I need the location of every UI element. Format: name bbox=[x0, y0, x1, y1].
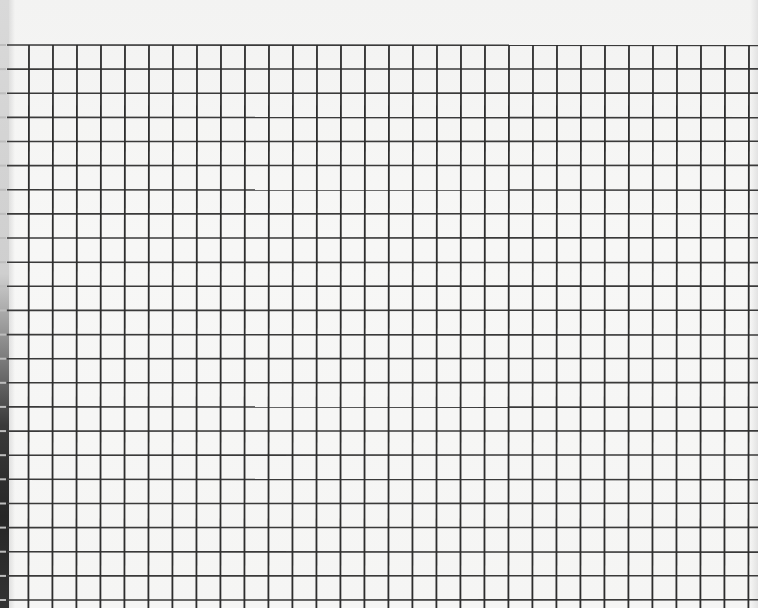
vertical-grid-line bbox=[148, 45, 149, 608]
margin-tick bbox=[0, 309, 6, 311]
margin-tick bbox=[0, 575, 6, 577]
vertical-grid-line bbox=[724, 45, 725, 608]
vertical-grid-line bbox=[628, 45, 629, 608]
vertical-grid-line bbox=[340, 45, 341, 608]
margin-tick bbox=[0, 213, 6, 215]
graph-paper-photo bbox=[0, 0, 758, 608]
margin-tick bbox=[0, 189, 6, 191]
vertical-grid-line bbox=[460, 45, 461, 608]
vertical-grid-line bbox=[52, 45, 53, 608]
margin-tick bbox=[0, 454, 6, 456]
margin-tick bbox=[0, 165, 6, 167]
grid-lines bbox=[0, 0, 758, 608]
vertical-grid-line bbox=[436, 45, 437, 608]
margin-tick bbox=[0, 237, 6, 239]
vertical-grid-line bbox=[28, 45, 29, 608]
vertical-grid-line bbox=[652, 45, 653, 608]
vertical-grid-line bbox=[196, 45, 197, 608]
margin-tick bbox=[0, 44, 6, 46]
vertical-grid-line bbox=[76, 45, 77, 608]
vertical-grid-line bbox=[412, 45, 413, 608]
vertical-grid-line bbox=[172, 45, 173, 608]
vertical-grid-line bbox=[244, 45, 245, 608]
vertical-grid-line bbox=[292, 45, 293, 608]
margin-tick bbox=[0, 527, 6, 529]
margin-tick bbox=[0, 261, 6, 263]
vertical-grid-line bbox=[124, 45, 125, 608]
vertical-grid-line bbox=[604, 45, 605, 608]
vertical-grid-line bbox=[220, 45, 221, 608]
vertical-grid-line bbox=[508, 45, 509, 608]
margin-tick bbox=[0, 141, 6, 143]
margin-tick bbox=[0, 116, 6, 118]
margin-tick bbox=[0, 358, 6, 360]
vertical-grid-line bbox=[580, 45, 581, 608]
vertical-grid-line bbox=[268, 45, 269, 608]
vertical-grid-line bbox=[316, 45, 317, 608]
vertical-grid-line bbox=[748, 45, 749, 608]
vertical-grid-line bbox=[532, 45, 533, 608]
vertical-grid-line bbox=[700, 45, 701, 608]
margin-tick bbox=[0, 599, 6, 601]
margin-tick bbox=[0, 92, 6, 94]
vertical-grid-line bbox=[100, 45, 101, 608]
vertical-grid-line bbox=[364, 45, 365, 608]
margin-tick bbox=[0, 478, 6, 480]
margin-tick bbox=[0, 285, 6, 287]
margin-tick bbox=[0, 551, 6, 553]
margin-tick bbox=[0, 68, 6, 70]
margin-tick bbox=[0, 503, 6, 505]
vertical-grid-line bbox=[556, 45, 557, 608]
margin-tick bbox=[0, 334, 6, 336]
vertical-grid-line bbox=[388, 45, 389, 608]
vertical-grid-line bbox=[484, 45, 485, 608]
margin-tick bbox=[0, 382, 6, 384]
margin-tick bbox=[0, 406, 6, 408]
vertical-grid-line bbox=[676, 45, 677, 608]
margin-tick bbox=[0, 430, 6, 432]
